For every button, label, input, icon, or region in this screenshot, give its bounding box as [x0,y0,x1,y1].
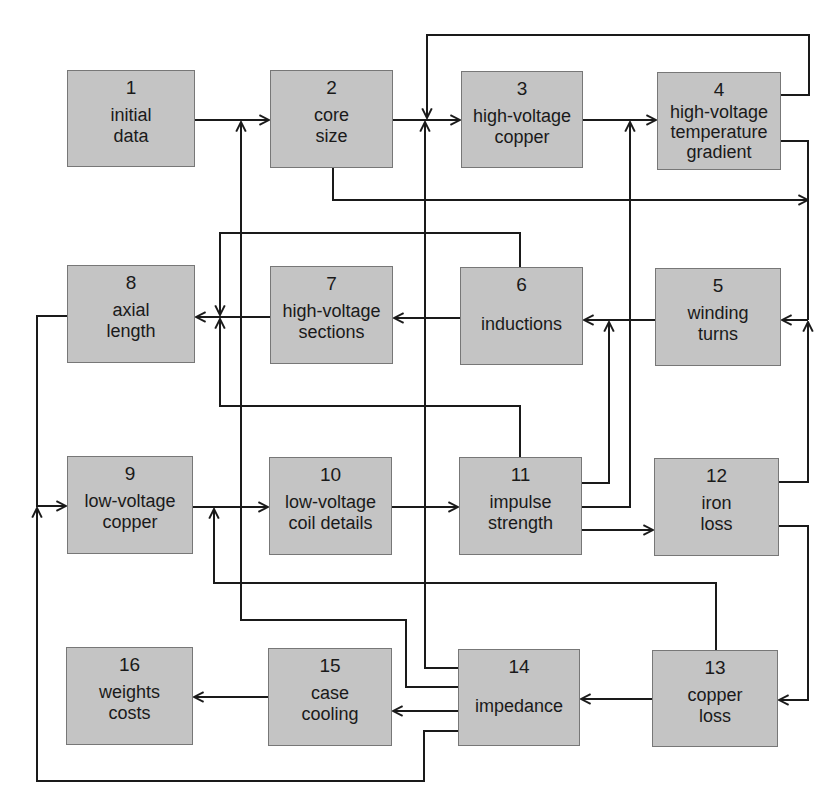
box-number: 5 [713,275,724,297]
box-2-core-size: 2 core size [270,70,393,168]
box-label: impulse strength [488,492,553,534]
box-1-initial-data: 1 initial data [67,70,195,167]
box-label: inductions [481,314,562,335]
box-6-inductions: 6 inductions [460,267,583,365]
box-label: iron loss [700,493,732,535]
box-9-low-voltage-copper: 9 low-voltage copper [67,456,193,554]
box-label: winding turns [687,303,748,345]
box-number: 10 [320,464,341,486]
box-11-impulse-strength: 11 impulse strength [459,457,582,555]
box-4-high-voltage-temperature-gradient: 4 high-voltage temperature gradient [657,72,781,170]
box-10-low-voltage-coil-details: 10 low-voltage coil details [269,457,392,555]
box-label: high-voltage sections [282,301,380,343]
box-label: core size [314,105,349,147]
box-14-impedance: 14 impedance [458,649,580,746]
box-label: axial length [106,300,155,342]
box-number: 16 [119,654,140,676]
box-12-iron-loss: 12 iron loss [654,458,779,556]
box-label: high-voltage temperature gradient [670,102,768,162]
box-number: 4 [714,79,725,101]
box-label: low-voltage copper [84,491,175,533]
box-number: 3 [517,78,528,100]
box-number: 2 [326,77,337,99]
box-label: low-voltage coil details [285,492,376,534]
box-number: 9 [125,463,136,485]
box-number: 13 [704,657,725,679]
box-number: 1 [126,77,137,99]
box-16-weights-costs: 16 weights costs [66,647,193,745]
box-number: 12 [706,465,727,487]
box-label: case cooling [301,683,358,725]
box-7-high-voltage-sections: 7 high-voltage sections [270,266,393,364]
box-8-axial-length: 8 axial length [67,265,195,363]
box-number: 6 [516,274,527,296]
box-13-copper-loss: 13 copper loss [652,650,778,747]
box-number: 7 [326,273,337,295]
box-label: weights costs [99,682,160,724]
box-label: impedance [475,696,563,717]
box-number: 11 [511,464,531,486]
box-3-high-voltage-copper: 3 high-voltage copper [461,71,583,168]
box-label: high-voltage copper [473,106,571,148]
box-number: 8 [126,272,137,294]
box-5-winding-turns: 5 winding turns [655,268,781,366]
box-label: initial data [110,105,151,147]
box-number: 15 [319,655,340,677]
box-label: copper loss [687,685,742,727]
box-number: 14 [508,656,529,678]
box-15-case-cooling: 15 case cooling [268,648,392,746]
